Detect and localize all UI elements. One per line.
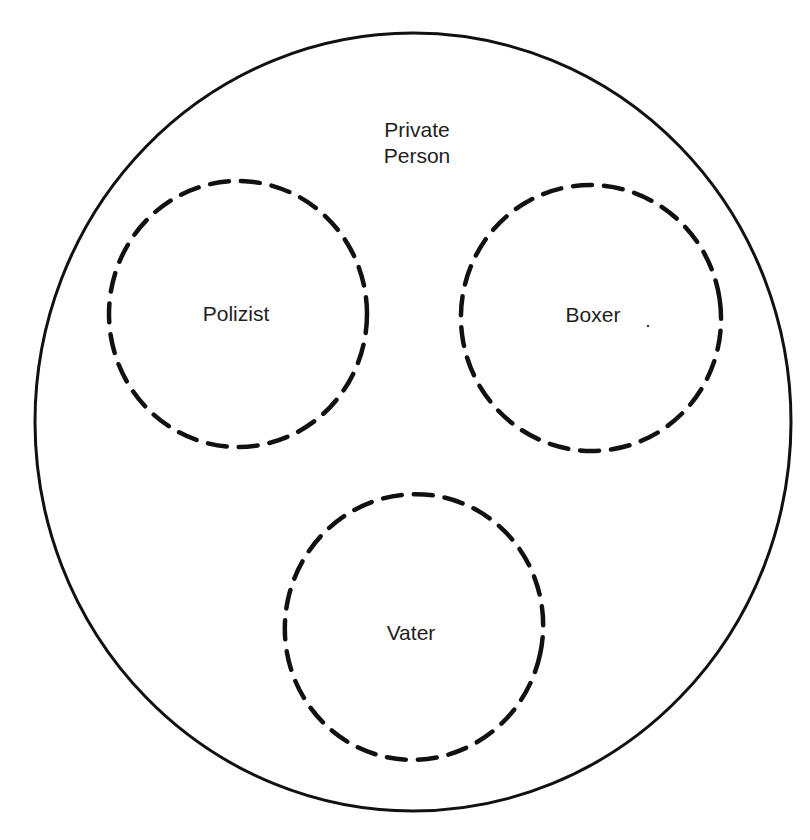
roles-diagram: Private Person Polizist Boxer Vater [0, 0, 810, 840]
private-person-group: Private Person [35, 33, 791, 811]
role-boxer: Boxer [444, 168, 738, 468]
role-boxer-label: Boxer [566, 303, 621, 326]
role-polizist-label: Polizist [203, 302, 270, 325]
scan-speck [647, 325, 649, 327]
private-person-label-line2: Person [384, 144, 451, 167]
role-vater-label: Vater [387, 621, 436, 644]
private-person-label-line1: Private [384, 118, 449, 141]
role-polizist: Polizist [109, 181, 367, 447]
role-vater: Vater [260, 470, 568, 784]
